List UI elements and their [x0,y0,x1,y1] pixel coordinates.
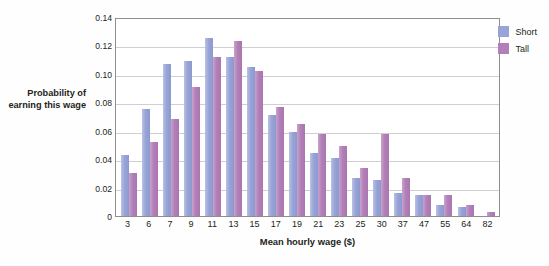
x-tick-label: 9 [181,219,202,233]
y-tick-label: 0.14 [95,13,112,23]
bar-short [205,38,213,216]
bar-tall [276,107,284,216]
bar-short [373,180,381,216]
bar-tall [339,146,347,216]
bar-group [202,19,223,216]
x-tick-label: 15 [244,219,265,233]
bar-group [139,19,160,216]
bar-tall [318,134,326,216]
bar-short [394,193,402,216]
y-tick-label: 0.04 [95,155,112,165]
bar-tall [402,178,410,216]
wage-probability-bar-chart: Probability of earning this wage 0.140.1… [0,0,549,266]
bar-tall [255,71,263,216]
x-tick-label: 55 [435,219,456,233]
bar-tall [360,168,368,216]
bar-tall [192,87,200,216]
x-axis-label: Mean hourly wage ($) [115,236,500,247]
bar-short [436,205,444,216]
bar-group [476,19,497,216]
x-tick-label: 7 [159,219,180,233]
y-tick-label: 0.08 [95,98,112,108]
bar-tall [297,124,305,216]
bar-group [244,19,265,216]
bar-group [287,19,308,216]
y-tick-label: 0.06 [95,127,112,137]
y-axis-tick-labels: 0.140.120.100.080.060.040.020 [84,18,112,217]
x-tick-label: 13 [223,219,244,233]
legend-label: Tall [515,44,529,54]
x-tick-label: 47 [413,219,434,233]
y-tick-label: 0.12 [95,41,112,51]
bar-short [142,109,150,216]
bar-group [265,19,286,216]
bar-group [223,19,244,216]
x-tick-label: 64 [456,219,477,233]
bar-group [350,19,371,216]
bar-group [160,19,181,216]
y-tick-label: 0.10 [95,70,112,80]
bar-short [247,67,255,216]
bar-short [226,57,234,216]
bar-short [289,132,297,216]
bar-group [413,19,434,216]
bar-group [455,19,476,216]
y-axis-label: Probability of earning this wage [8,88,86,111]
bar-short [310,153,318,216]
x-tick-label: 23 [329,219,350,233]
bar-tall [423,195,431,216]
bar-short [184,61,192,216]
x-tick-label: 3 [117,219,138,233]
bar-short [352,178,360,216]
bar-group [308,19,329,216]
bar-short [268,115,276,216]
x-axis-tick-labels: 36791113151719212325303747556482 [115,219,500,233]
x-tick-label: 21 [308,219,329,233]
x-tick-label: 82 [477,219,498,233]
x-tick-label: 17 [265,219,286,233]
x-tick-label: 30 [371,219,392,233]
plot-area [115,18,500,217]
bar-group [329,19,350,216]
bar-short [163,64,171,216]
bar-tall [171,119,179,216]
bar-group [392,19,413,216]
x-tick-label: 37 [392,219,413,233]
bar-group [181,19,202,216]
legend-swatch-short [498,26,509,37]
bar-tall [444,195,452,216]
bar-group [434,19,455,216]
bar-tall [213,57,221,216]
bar-short [415,195,423,216]
bar-group [371,19,392,216]
legend-label: Short [515,27,537,37]
bar-short [458,207,466,216]
x-tick-label: 19 [286,219,307,233]
bar-groups [116,19,499,216]
bar-group [118,19,139,216]
bar-tall [381,134,389,216]
bar-tall [487,212,495,216]
bar-tall [129,173,137,216]
legend-swatch-tall [498,43,509,54]
y-tick-label: 0.02 [95,184,112,194]
x-tick-label: 25 [350,219,371,233]
legend-item-tall: Tall [498,43,537,54]
y-tick-label: 0 [107,212,112,222]
legend: ShortTall [498,26,537,54]
bar-short [331,158,339,216]
x-tick-label: 11 [202,219,223,233]
bar-tall [150,142,158,216]
bar-tall [466,205,474,216]
legend-item-short: Short [498,26,537,37]
bar-tall [234,41,242,216]
x-tick-label: 6 [138,219,159,233]
bar-short [121,155,129,216]
